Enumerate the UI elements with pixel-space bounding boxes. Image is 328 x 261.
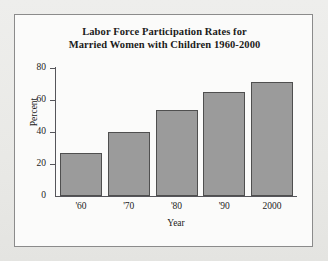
x-axis-tick-labels: '60 '70 '80 '90 2000 [56, 201, 296, 215]
x-tick-label-1970: '70 [108, 201, 150, 215]
y-tick-label-80: 80 [18, 62, 46, 72]
x-axis-title: Year [56, 218, 296, 228]
bar-slot-1990 [203, 68, 245, 196]
bar-1980[interactable] [156, 110, 198, 196]
x-tick-label-1960: '60 [60, 201, 102, 215]
bar-1990[interactable] [203, 92, 245, 196]
chart-title: Labor Force Participation Rates for Marr… [15, 25, 314, 51]
y-axis-title: Percent [29, 77, 39, 147]
bar-slot-2000 [251, 68, 293, 196]
chart-title-line-2: Married Women with Children 1960-2000 [15, 38, 314, 51]
bar-series [56, 68, 296, 196]
bar-2000[interactable] [251, 82, 293, 196]
x-tick-label-1980: '80 [156, 201, 198, 215]
bar-1960[interactable] [60, 153, 102, 196]
bar-slot-1980 [156, 68, 198, 196]
bar-slot-1970 [108, 68, 150, 196]
y-tick-label-20: 20 [18, 158, 46, 168]
x-tick-label-1990: '90 [203, 201, 245, 215]
bar-slot-1960 [60, 68, 102, 196]
y-tick-label-0: 0 [18, 190, 46, 200]
chart-figure-frame: Labor Force Participation Rates for Marr… [14, 14, 313, 247]
chart-title-line-1: Labor Force Participation Rates for [15, 25, 314, 38]
x-tick-label-2000: 2000 [251, 201, 293, 215]
bar-1970[interactable] [108, 132, 150, 196]
x-axis-line [55, 196, 297, 197]
